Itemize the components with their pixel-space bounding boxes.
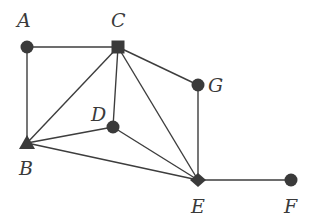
node-g-circle-icon (192, 79, 205, 92)
node-a-circle-icon (21, 41, 34, 54)
node-label-f: F (283, 195, 298, 217)
node-f-circle-icon (285, 174, 298, 187)
node-label-e: E (190, 195, 205, 217)
edges (27, 47, 291, 180)
graph-diagram: ABCDEFG (0, 0, 319, 222)
node-label-d: D (90, 103, 106, 125)
node-label-g: G (208, 74, 223, 96)
edge-b-e (27, 143, 198, 180)
edge-c-d (113, 47, 118, 127)
node-label-c: C (111, 9, 126, 31)
node-c-square-icon (112, 41, 125, 54)
node-label-a: A (15, 9, 31, 31)
node-label-b: B (18, 157, 33, 179)
edge-d-e (113, 127, 198, 180)
node-e-diamond-icon (190, 173, 206, 187)
labels: ABCDEFG (15, 9, 298, 217)
node-d-circle-icon (107, 121, 120, 134)
edge-c-e (118, 47, 198, 180)
